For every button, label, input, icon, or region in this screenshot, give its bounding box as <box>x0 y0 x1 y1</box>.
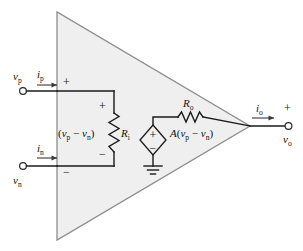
label-vp: vp <box>13 70 22 85</box>
label-io: io <box>256 102 263 117</box>
sign-plus-noninverting-input: + <box>63 75 70 89</box>
sign-plus-dependent-source: + <box>150 128 157 142</box>
circuit-diagram-canvas: vp ip in vn io vo + − + − (vp − vn) Ri R… <box>0 0 303 251</box>
label-in: in <box>37 142 44 157</box>
current-arrow-in-head <box>52 155 58 160</box>
label-vo: vo <box>283 133 292 148</box>
sign-plus-input-voltage: + <box>99 99 106 113</box>
output-terminal[interactable] <box>285 123 292 130</box>
current-arrow-ip-head <box>52 82 58 87</box>
inverting-input-terminal[interactable] <box>20 163 27 170</box>
sign-minus-dependent-source: − <box>150 141 157 155</box>
op-amp-equivalent-circuit-figure: vp ip in vn io vo + − + − (vp − vn) Ri R… <box>0 0 303 251</box>
current-arrow-io-head <box>269 115 275 120</box>
label-vn: vn <box>13 174 22 189</box>
non-inverting-input-terminal[interactable] <box>20 88 27 95</box>
sign-minus-input-voltage: − <box>99 147 106 161</box>
sign-plus-output: + <box>284 101 291 115</box>
label-ip: ip <box>37 68 44 83</box>
sign-minus-inverting-input: − <box>63 165 70 179</box>
